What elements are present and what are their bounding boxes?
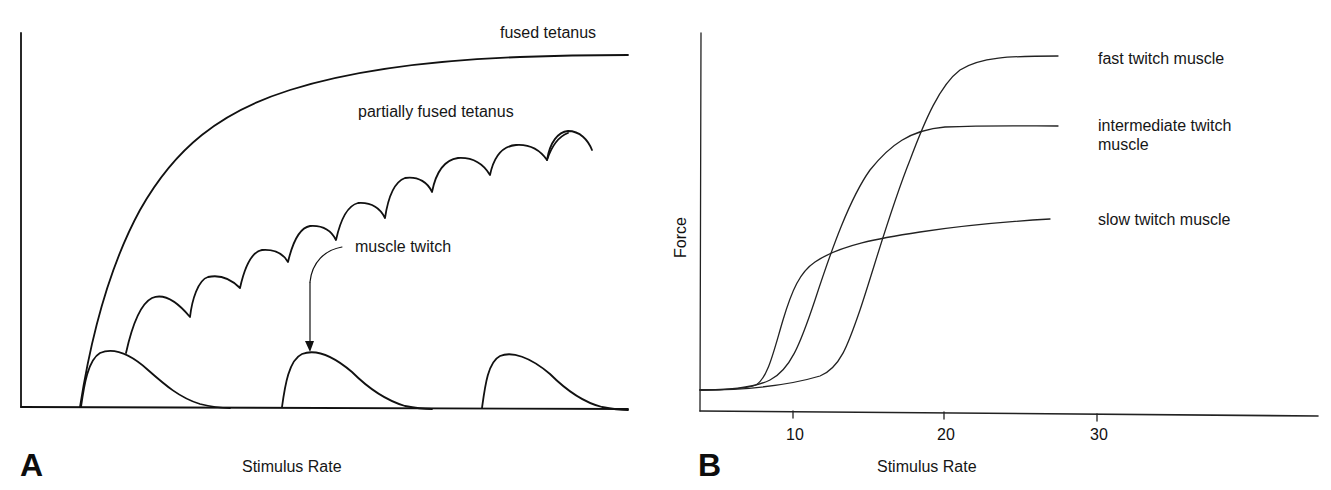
tick-label-10: 10 (786, 426, 804, 444)
tick-label-30: 30 (1090, 426, 1108, 444)
panel-a-x-label: Stimulus Rate (242, 458, 342, 476)
figure-canvas (0, 0, 1331, 490)
muscle-twitch-1 (81, 351, 230, 408)
panel-a-letter: A (20, 447, 43, 484)
fast-twitch-curve (700, 56, 1058, 390)
partially-fused-tetanus-label: partially fused tetanus (358, 103, 514, 121)
fused-tetanus-curve (80, 55, 628, 407)
muscle-twitch-label: muscle twitch (355, 238, 451, 256)
fused-tetanus-label: fused tetanus (500, 24, 596, 42)
panel-b-y-label: Force (672, 217, 690, 258)
slow-twitch-label: slow twitch muscle (1098, 211, 1230, 229)
fast-twitch-label: fast twitch muscle (1098, 50, 1224, 68)
intermediate-twitch-curve (700, 126, 1058, 390)
muscle-twitch-arrow-line (310, 247, 342, 282)
panel-b-y-axis (700, 33, 701, 411)
panel-b-letter: B (698, 447, 721, 484)
muscle-twitch-3 (482, 354, 628, 410)
tick-label-20: 20 (937, 426, 955, 444)
partially-fused-tetanus-curve (126, 133, 568, 353)
panel-b-x-label: Stimulus Rate (877, 458, 977, 476)
muscle-twitch-2 (282, 352, 432, 409)
panel-a-x-axis (21, 407, 628, 409)
intermediate-twitch-label-line1: intermediate twitch (1098, 117, 1231, 135)
intermediate-twitch-label-line2: muscle (1098, 136, 1149, 154)
slow-twitch-curve (700, 219, 1050, 390)
